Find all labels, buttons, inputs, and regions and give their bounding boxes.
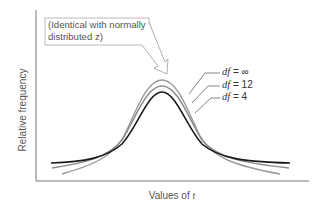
label-df-12: df = 12 xyxy=(222,79,253,90)
x-axis-label: Values of t xyxy=(149,190,196,201)
leader-df-infinity xyxy=(189,73,220,94)
label-var: df xyxy=(222,91,230,102)
label-var: df xyxy=(222,66,230,77)
label-eq: = 4 xyxy=(230,91,247,102)
leader-df-12 xyxy=(192,86,220,103)
callout-line-2: distributed z) xyxy=(48,31,146,43)
curve-df-4 xyxy=(51,92,290,163)
leader-df-4 xyxy=(195,98,220,113)
label-eq: = ∞ xyxy=(230,66,249,77)
label-eq: = 12 xyxy=(230,79,253,90)
label-var: df xyxy=(222,79,230,90)
callout-text: (Identical with normally distributed z) xyxy=(45,18,149,44)
callout-line-1: (Identical with normally xyxy=(48,19,146,31)
label-df-infinity: df = ∞ xyxy=(222,66,249,77)
y-axis-label: Relative frequency xyxy=(17,69,28,152)
x-axis-label-prefix: Values of xyxy=(149,190,193,201)
label-df-4: df = 4 xyxy=(222,91,247,102)
x-axis-label-var: t xyxy=(192,190,195,201)
curve-df-12 xyxy=(52,86,289,168)
